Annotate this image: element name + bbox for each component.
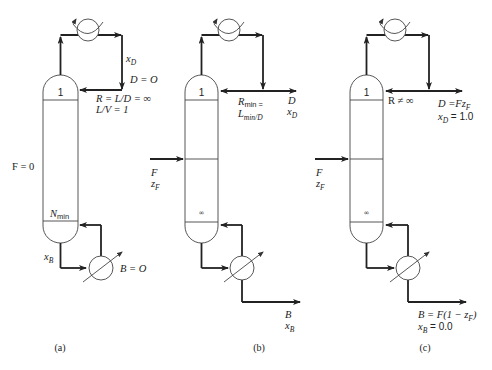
panel-c-distillate-x: xD = 1.0	[437, 111, 474, 125]
panel-b-bottoms-B: B	[285, 309, 292, 320]
column-a-top-tray-label: 1	[58, 87, 64, 98]
condenser-a-icon	[73, 19, 103, 41]
column-b-top-tray-label: 1	[199, 87, 205, 98]
panel-c-caption: (c)	[419, 342, 430, 354]
panel-b-distillate-D: D	[287, 95, 296, 106]
condenser-b-icon	[214, 19, 244, 41]
distillation-diagram: 1 Nmin xD D = O R = L/D = ∞ L/V = 1 F = …	[0, 0, 492, 370]
panel-a-reflux-ratio: R = L/D = ∞	[95, 93, 151, 104]
panel-c: 1 ∞ F zF R ≠ ∞ D =FzF xD = 1.0 B = F(1 −…	[315, 19, 477, 354]
panel-a-distillate-comp: xD	[125, 53, 137, 67]
panel-a-bottoms-flow: B = O	[120, 263, 147, 274]
panel-b-feed-F: F	[150, 167, 158, 178]
panel-b-distillate-x: xD	[286, 106, 298, 120]
panel-a-distillate-flow: D = O	[129, 74, 158, 85]
panel-b-reflux-L: Lmin/D	[237, 108, 263, 122]
reboiler-a-icon	[83, 252, 122, 282]
panel-c-bottoms-x: xB = 0.0	[417, 321, 453, 335]
panel-b-feed-z: zF	[150, 178, 160, 192]
reboiler-c-icon	[390, 252, 429, 282]
panel-a-bottoms-comp: xB	[43, 251, 54, 265]
condenser-c-icon	[380, 19, 410, 41]
reboiler-b-icon	[224, 252, 263, 282]
column-c-top-tray-label: 1	[364, 87, 370, 98]
panel-a-feed-label: F = 0	[12, 161, 34, 172]
panel-a: 1 Nmin xD D = O R = L/D = ∞ L/V = 1 F = …	[12, 19, 158, 354]
panel-c-distillate-flow: D =FzF	[437, 98, 471, 112]
panel-a-caption: (a)	[54, 342, 65, 354]
panel-c-feed-F: F	[315, 167, 323, 178]
panel-b: 1 ∞ F zF Rmin = Lmin/D D xD B xB (b)	[150, 19, 300, 354]
panel-b-bottoms-x: xB	[284, 320, 295, 334]
panel-c-reflux: R ≠ ∞	[388, 95, 414, 106]
panel-a-lv-ratio: L/V = 1	[95, 104, 129, 115]
panel-b-caption: (b)	[253, 342, 265, 354]
column-c-bottom-tray-label: ∞	[364, 209, 370, 217]
column-b-bottom-tray-label: ∞	[199, 209, 205, 217]
panel-c-feed-z: zF	[315, 178, 325, 192]
